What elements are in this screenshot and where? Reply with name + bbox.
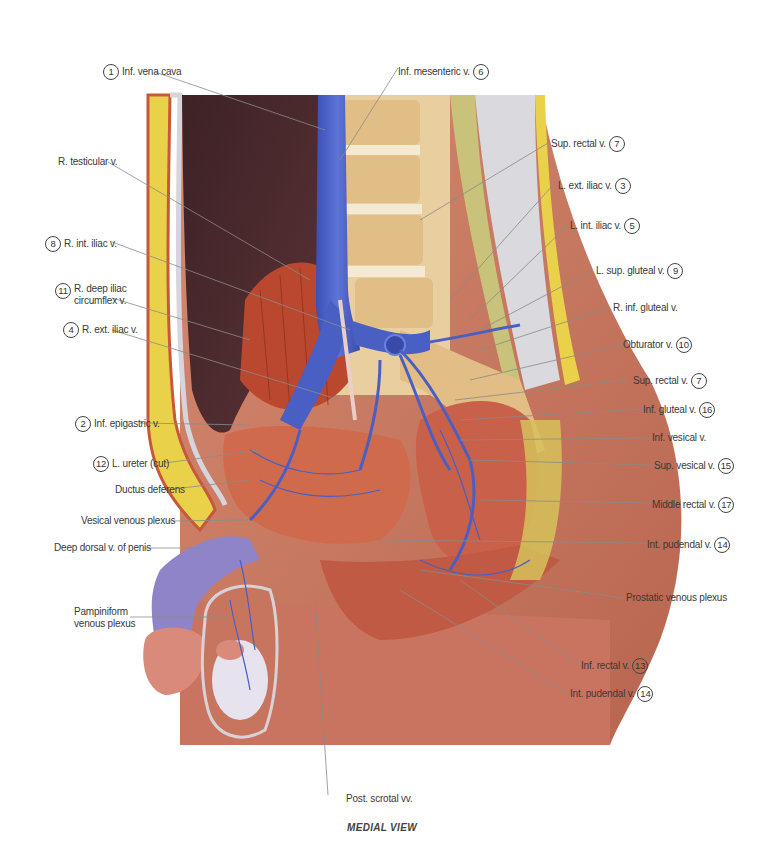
label-number: 5 — [624, 218, 640, 234]
label-number: 16 — [699, 402, 715, 418]
label-number: 1 — [103, 64, 119, 80]
label-obturator-v: Obturator v.10 — [623, 337, 695, 353]
label-deep-dorsal-v-of-penis: Deep dorsal v. of penis — [54, 542, 151, 554]
label-inf-mesenteric-v: Inf. mesenteric v.6 — [398, 64, 492, 80]
label-inf-vesical-v: Inf. vesical v. — [652, 432, 706, 444]
label-number: 2 — [75, 416, 91, 432]
label-number: 6 — [473, 64, 489, 80]
label-sup-rectal-v-mid: Sup. rectal v.7 — [633, 373, 710, 389]
label-middle-rectal-v: Middle rectal v.17 — [652, 497, 737, 513]
label-vesical-venous-plexus: Vesical venous plexus — [81, 515, 175, 527]
label-number: 3 — [615, 178, 631, 194]
label-number: 8 — [45, 236, 61, 252]
label-pampiniform-venous-plexus: Pampiniformvenous plexus — [74, 606, 135, 630]
label-number: 9 — [667, 263, 683, 279]
figure-caption: MEDIAL VIEW — [0, 822, 764, 833]
label-l-int-iliac-v: L. int. iliac v.5 — [570, 218, 643, 234]
label-prostatic-venous-plexus: Prostatic venous plexus — [626, 592, 727, 604]
label-number: 7 — [609, 136, 625, 152]
label-number: 4 — [63, 322, 79, 338]
label-r-ext-iliac-v: 4R. ext. iliac v. — [60, 322, 138, 338]
label-inf-vena-cava: 1Inf. vena cava — [100, 64, 181, 80]
label-inf-gluteal-v: Inf. gluteal v.16 — [643, 402, 718, 418]
label-l-ureter-cut: 12L. ureter (cut) — [90, 456, 169, 472]
label-inf-epigastric-v: 2Inf. epigastric v. — [72, 416, 160, 432]
label-ductus-deferens: Ductus deferens — [115, 484, 185, 496]
label-number: 12 — [93, 456, 109, 472]
label-l-sup-gluteal-v: L. sup. gluteal v.9 — [596, 263, 686, 279]
label-int-pudendal-v-top: Int. pudendal v.14 — [647, 537, 733, 553]
label-number: 14 — [714, 537, 730, 553]
label-r-testicular-v: R. testicular v. — [58, 156, 117, 168]
label-int-pudendal-v-bottom: Int. pudendal v.14 — [570, 686, 656, 702]
label-inf-rectal-v: Inf. rectal v.13 — [581, 658, 651, 674]
label-r-deep-iliac-circumflex-v: 11R. deep iliaccircumflex v. — [52, 283, 126, 307]
label-post-scrotal-vv: Post. scrotal vv. — [346, 793, 412, 805]
label-number: 17 — [718, 497, 734, 513]
label-sup-vesical-v: Sup. vesical v.15 — [654, 458, 737, 474]
label-number: 15 — [718, 458, 734, 474]
label-sup-rectal-v-top: Sup. rectal v.7 — [551, 136, 628, 152]
label-r-int-iliac-v: 8R. int. iliac v. — [42, 236, 117, 252]
label-number: 10 — [676, 337, 692, 353]
label-number: 13 — [632, 658, 648, 674]
label-l-ext-iliac-v: L. ext. iliac v.3 — [558, 178, 634, 194]
label-number: 11 — [55, 283, 71, 299]
label-number: 7 — [691, 373, 707, 389]
label-number: 14 — [637, 686, 653, 702]
label-r-inf-gluteal-v: R. inf. gluteal v. — [613, 302, 678, 314]
